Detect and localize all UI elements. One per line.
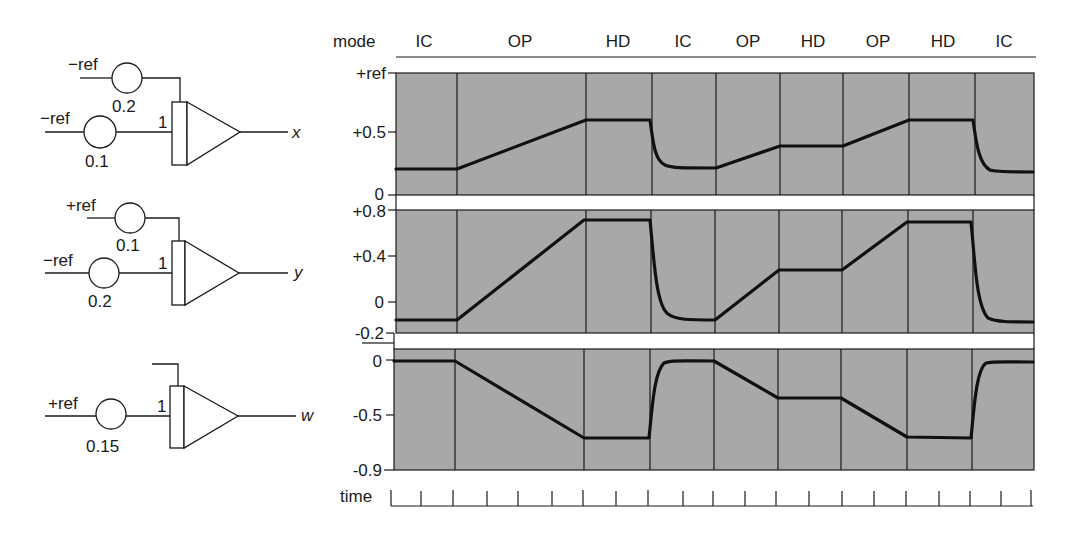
mode-segment: IC	[416, 32, 433, 51]
mode-segment: OP	[736, 32, 761, 51]
y-tick-label: +0.8	[352, 202, 386, 221]
integrator-ic-block-icon	[172, 241, 185, 305]
coefficient-pot-icon	[115, 203, 145, 233]
plot-panels	[362, 73, 1034, 470]
gain-label: 1	[158, 113, 167, 132]
amplifier-triangle-icon	[187, 102, 240, 165]
coefficient-pot-icon	[89, 258, 119, 288]
time-axis-label: time	[340, 487, 372, 506]
coefficient-pot-icon	[96, 399, 126, 429]
output-label: w	[301, 406, 315, 425]
coefficient-label: 0.2	[88, 292, 112, 311]
input-label: −ref	[43, 251, 73, 270]
amplifier-triangle-icon	[184, 386, 238, 448]
output-label: y	[293, 263, 304, 282]
y-tick-label: -0.2	[355, 324, 384, 343]
figure: −ref 0.2 −ref 0.1 1 x +ref 0.1 −ref 0.2 …	[0, 0, 1065, 536]
time-axis	[391, 490, 1033, 506]
circuit-w	[45, 364, 296, 448]
coefficient-label: 0.15	[86, 437, 119, 456]
mode-segment: HD	[801, 32, 826, 51]
input-label: +ref	[66, 196, 96, 215]
mode-segment: IC	[996, 32, 1013, 51]
coefficient-label: 0.1	[116, 236, 140, 255]
coefficient-label: 0.1	[85, 152, 109, 171]
y-tick-label: +0.5	[352, 123, 386, 142]
y-tick-label: -0.5	[353, 406, 382, 425]
input-label: −ref	[40, 109, 70, 128]
input-label: +ref	[48, 394, 78, 413]
mode-axis-label: mode	[333, 32, 376, 51]
coefficient-pot-icon	[112, 63, 142, 93]
amplifier-triangle-icon	[185, 241, 239, 305]
y-tick-label: 0	[375, 293, 384, 312]
mode-segment: HD	[931, 32, 956, 51]
y-tick-label: +0.4	[352, 247, 386, 266]
integrator-ic-block-icon	[172, 102, 187, 165]
y-tick-label: +ref	[356, 64, 386, 83]
mode-segment: IC	[675, 32, 692, 51]
gain-label: 1	[158, 254, 167, 273]
coefficient-label: 0.2	[112, 97, 136, 116]
mode-segment: HD	[606, 32, 631, 51]
output-label: x	[291, 123, 301, 142]
y-tick-label: -0.9	[353, 461, 382, 480]
input-label: −ref	[68, 55, 98, 74]
coefficient-pot-icon	[84, 116, 116, 148]
y-tick-label: 0	[373, 352, 382, 371]
mode-segment: OP	[508, 32, 533, 51]
gain-label: 1	[157, 397, 166, 416]
integrator-ic-block-icon	[170, 386, 184, 448]
mode-segment: OP	[866, 32, 891, 51]
